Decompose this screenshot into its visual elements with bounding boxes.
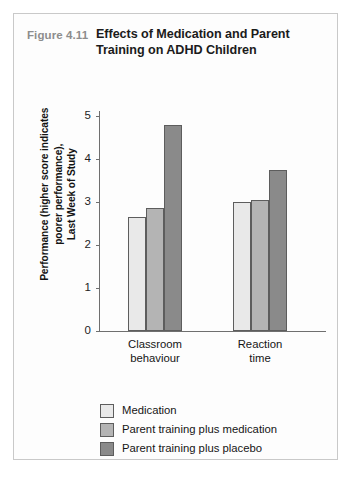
y-axis-tick-mark	[96, 245, 100, 246]
x-axis-category-label: Reactiontime	[210, 338, 310, 365]
bar	[128, 217, 146, 331]
bar	[269, 170, 287, 331]
x-axis-category-label-line: Reaction	[210, 338, 310, 352]
bar	[251, 200, 269, 331]
y-axis-tick-mark	[96, 116, 100, 117]
x-axis-category-label-line: behaviour	[105, 352, 205, 366]
y-axis-tick-mark	[96, 288, 100, 289]
legend-swatch	[100, 404, 114, 418]
legend-swatch	[100, 423, 114, 437]
legend-swatch	[100, 442, 114, 456]
bar	[164, 125, 182, 331]
legend-label: Parent training plus medication	[122, 423, 277, 435]
x-axis-category-label-line: Classroom	[105, 338, 205, 352]
bar-chart: Performance (higher score indicatespoore…	[14, 14, 339, 461]
y-axis-tick-label: 0	[71, 324, 91, 336]
figure-card: Figure 4.11 Effects of Medication and Pa…	[13, 13, 338, 460]
y-axis-tick-label: 5	[71, 109, 91, 121]
x-axis-category-label-line: time	[210, 352, 310, 366]
y-axis-tick-mark	[96, 331, 100, 332]
y-axis-tick-mark	[96, 159, 100, 160]
y-axis-tick-label: 2	[71, 238, 91, 250]
y-axis-tick-mark	[96, 202, 100, 203]
bar	[233, 202, 251, 331]
x-axis-line	[99, 331, 326, 332]
x-axis-category-label: Classroombehaviour	[105, 338, 205, 365]
bar	[146, 208, 164, 331]
y-axis-tick-label: 4	[71, 152, 91, 164]
y-axis-tick-label: 1	[71, 281, 91, 293]
y-axis-label-line: Performance (higher score indicates	[38, 84, 52, 304]
legend-label: Parent training plus placebo	[122, 442, 262, 454]
legend-label: Medication	[122, 404, 177, 416]
y-axis-tick-label: 3	[71, 195, 91, 207]
y-axis-label-line: poorer performance),	[51, 84, 65, 304]
y-axis-line	[99, 111, 100, 332]
